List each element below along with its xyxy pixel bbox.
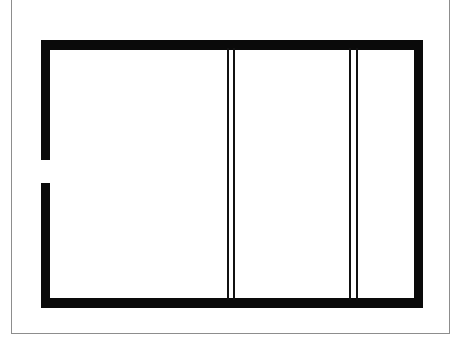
partition-line-right-b [356, 48, 358, 300]
wall-top [41, 40, 423, 50]
partition-line-left-a [227, 48, 229, 300]
wall-right [414, 40, 423, 308]
doorway-opening [41, 160, 50, 183]
room-right-bay [358, 50, 414, 298]
wall-left-upper [41, 40, 50, 160]
wall-bottom [41, 298, 423, 308]
wall-left-lower [41, 183, 50, 308]
room-middle-bay [235, 50, 349, 298]
partition-line-right-a [349, 48, 351, 300]
floor-plan-canvas [0, 0, 465, 345]
room-left-bay [50, 50, 227, 298]
floor-plan-drawing [0, 0, 465, 345]
partition-line-left-b [233, 48, 235, 300]
